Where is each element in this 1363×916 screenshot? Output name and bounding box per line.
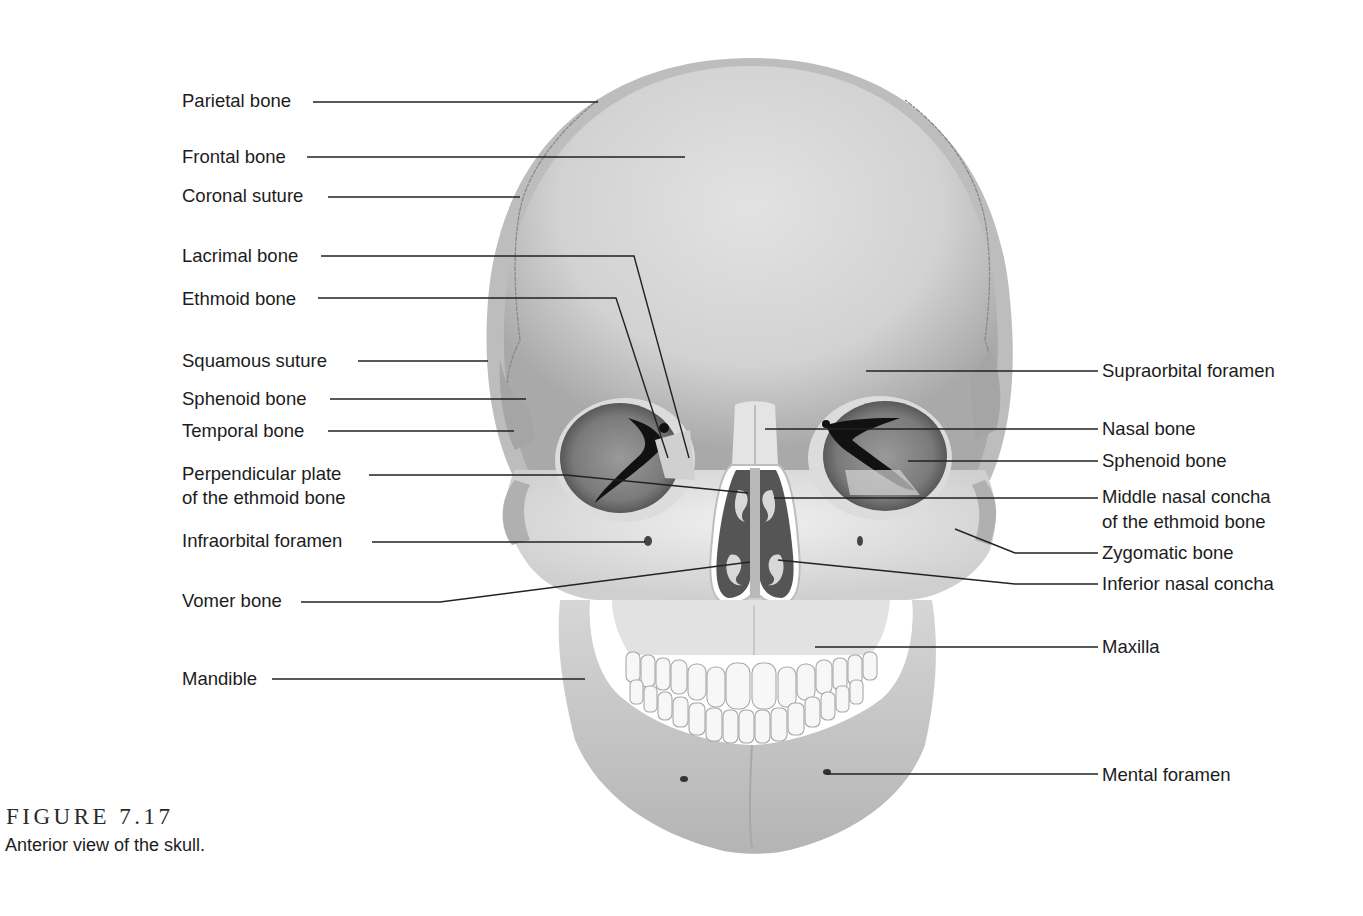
- label-supraorbital-foramen: Supraorbital foramen: [1102, 359, 1275, 382]
- label-squamous-suture: Squamous suture: [182, 349, 327, 372]
- figure-stage: Parietal boneFrontal boneCoronal sutureL…: [0, 0, 1363, 916]
- mental-foramen-left: [680, 776, 688, 782]
- label-mental-foramen: Mental foramen: [1102, 763, 1231, 786]
- label-middle-nasal-concha: Middle nasal concha: [1102, 485, 1271, 508]
- label-perpendicular-plate: Perpendicular plate: [182, 462, 341, 485]
- label-lacrimal-bone: Lacrimal bone: [182, 244, 298, 267]
- label-perpendicular-plate-2: of the ethmoid bone: [182, 486, 346, 509]
- label-ethmoid-bone: Ethmoid bone: [182, 287, 296, 310]
- infraorbital-foramen-left: [644, 536, 652, 546]
- right-orbit: [808, 396, 952, 520]
- label-frontal-bone: Frontal bone: [182, 145, 286, 168]
- label-coronal-suture: Coronal suture: [182, 184, 303, 207]
- label-sphenoid-bone-right: Sphenoid bone: [1102, 449, 1226, 472]
- label-sphenoid-bone-left: Sphenoid bone: [182, 387, 306, 410]
- label-parietal-bone: Parietal bone: [182, 89, 291, 112]
- figure-number: FIGURE 7.17: [6, 804, 174, 830]
- label-zygomatic-bone: Zygomatic bone: [1102, 541, 1234, 564]
- label-middle-nasal-concha-2: of the ethmoid bone: [1102, 510, 1266, 533]
- label-mandible: Mandible: [182, 667, 257, 690]
- left-orbit: [555, 398, 695, 522]
- label-infraorbital-foramen: Infraorbital foramen: [182, 529, 342, 552]
- label-inferior-nasal-concha: Inferior nasal concha: [1102, 572, 1274, 595]
- infraorbital-foramen-right: [857, 536, 863, 546]
- figure-caption: Anterior view of the skull.: [5, 835, 205, 856]
- label-temporal-bone: Temporal bone: [182, 419, 304, 442]
- label-maxilla: Maxilla: [1102, 635, 1160, 658]
- label-vomer-bone: Vomer bone: [182, 589, 282, 612]
- label-nasal-bone: Nasal bone: [1102, 417, 1196, 440]
